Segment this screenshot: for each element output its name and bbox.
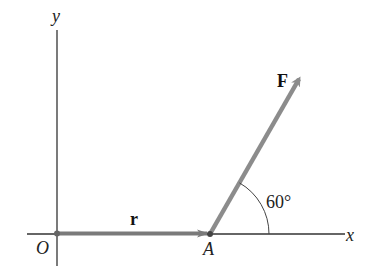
vector-f-label: F (277, 71, 288, 91)
origin-label: O (36, 238, 49, 258)
y-axis-label: y (50, 6, 60, 26)
angle-arc (240, 183, 270, 234)
vector-r-label: r (130, 209, 138, 229)
x-axis-label: x (345, 225, 354, 245)
origin-point (54, 231, 60, 237)
point-a-label: A (202, 239, 215, 259)
force-position-diagram: y x O A r F 60° (0, 0, 371, 272)
point-a (207, 231, 213, 237)
angle-label: 60° (266, 192, 291, 212)
